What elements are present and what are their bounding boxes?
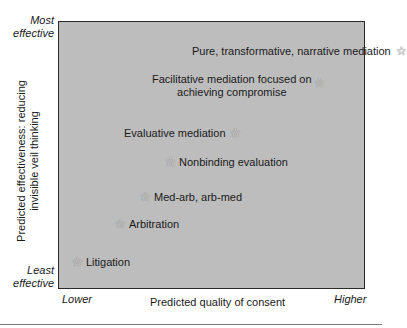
x-low-label: Lower <box>62 293 92 305</box>
star-icon: ☆ <box>140 191 151 204</box>
point-med-arb: ☆ Med-arb, arb-med <box>140 191 242 204</box>
most-label: Most <box>8 14 54 27</box>
least-label: Least <box>8 264 54 277</box>
y-low-label: Least effective <box>8 264 54 290</box>
x-axis-title: Predicted quality of consent <box>150 296 285 308</box>
point-pure-transformative: Pure, transformative, narrative mediatio… <box>192 45 407 58</box>
x-high-label: Higher <box>334 293 366 305</box>
point-litigation: ☆ Litigation <box>72 256 130 269</box>
point-facilitative: Facilitative mediation focused on achiev… <box>152 73 325 99</box>
point-arbitration: ☆ Arbitration <box>115 218 179 231</box>
star-icon: ☆ <box>72 256 83 269</box>
star-icon: ☆ <box>165 156 176 169</box>
point-evaluative: Evaluative mediation ☆ <box>124 127 241 140</box>
star-icon: ☆ <box>230 127 241 140</box>
point-nonbinding: ☆ Nonbinding evaluation <box>165 156 288 169</box>
y-high-label: Most effective <box>8 14 54 40</box>
star-icon: ☆ <box>396 45 407 58</box>
plot-area <box>58 21 365 289</box>
effective-bottom-label: effective <box>8 277 54 290</box>
star-icon: ☆ <box>115 218 126 231</box>
star-icon: ☆ <box>314 77 325 90</box>
effective-top-label: effective <box>8 27 54 40</box>
y-axis-title: Predicted effectiveness: reducing invisi… <box>15 61 41 261</box>
bottom-rule <box>0 324 382 325</box>
